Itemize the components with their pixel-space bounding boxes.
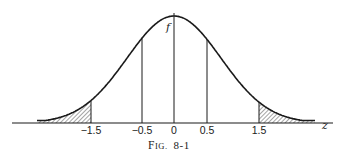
x-tick-label: −1.5 — [81, 124, 102, 136]
x-tick-label: 0.5 — [200, 124, 215, 136]
x-tick-label: 1.5 — [252, 124, 267, 136]
vertical-ordinates — [91, 13, 259, 123]
normal-distribution-figure: f −1.5−0.500.51.5 z FIG.8-1 — [0, 0, 346, 157]
caption-first-letter: F — [148, 139, 155, 151]
left-tail-hatched-area — [37, 101, 91, 124]
x-tick-label: 0 — [171, 124, 177, 136]
figure-caption: FIG.8-1 — [148, 139, 190, 151]
curve-label-f: f — [165, 21, 172, 34]
normal-density-curve — [37, 16, 315, 121]
x-tick-label: −0.5 — [132, 124, 153, 136]
caption-number: 8-1 — [174, 139, 190, 151]
axis-label-z: z — [321, 119, 328, 132]
x-tick-labels: −1.5−0.500.51.5 — [81, 124, 267, 136]
caption-small-caps: IG. — [155, 141, 168, 151]
